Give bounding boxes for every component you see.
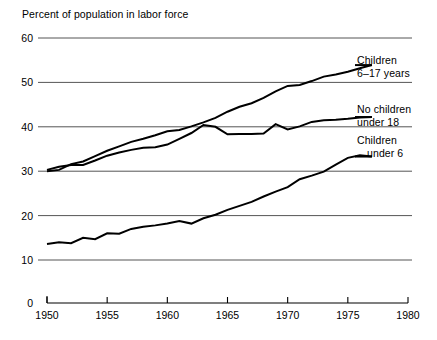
series-label-children-under-6: Children under 6: [357, 134, 403, 159]
series-label-line1: No children: [357, 103, 411, 116]
chart-container: Percent of population in labor force 605…: [0, 0, 437, 340]
gridlines-group: [38, 38, 412, 260]
series-label-line1: Children: [357, 134, 403, 147]
y-tick-label: 40: [21, 121, 33, 133]
y-tick-label: 20: [21, 210, 33, 222]
x-tick-label: 1980: [396, 309, 420, 321]
series-paths-group: [47, 65, 372, 244]
x-tick-label: 1950: [35, 309, 59, 321]
x-tick-label: 1960: [156, 309, 180, 321]
chart-plot-area: 605040302010 0 1950195519601965197019751…: [0, 0, 437, 340]
series-line-1: [47, 117, 372, 170]
x-axis-group: 0: [27, 296, 408, 309]
series-label-line2: under 6: [357, 147, 403, 160]
series-label-line1: Children: [357, 54, 410, 67]
y-tick-label: 50: [21, 76, 33, 88]
x-tick-labels-group: 1950195519601965197019751980: [35, 309, 420, 321]
series-line-0: [47, 65, 372, 171]
y-tick-label: 30: [21, 165, 33, 177]
y-zero-label: 0: [27, 297, 33, 309]
x-tick-label: 1975: [336, 309, 360, 321]
y-tick-labels-group: 605040302010: [21, 32, 33, 266]
series-line-2: [47, 155, 372, 244]
series-label-line2: 6–17 years: [357, 67, 410, 80]
series-label-no-children-under-18: No children under 18: [357, 103, 411, 128]
x-tick-label: 1965: [216, 309, 240, 321]
x-tick-label: 1955: [95, 309, 119, 321]
series-label-children-6-17: Children 6–17 years: [357, 54, 410, 79]
y-tick-label: 10: [21, 254, 33, 266]
x-tick-label: 1970: [276, 309, 300, 321]
series-label-line2: under 18: [357, 116, 411, 129]
y-tick-label: 60: [21, 32, 33, 44]
